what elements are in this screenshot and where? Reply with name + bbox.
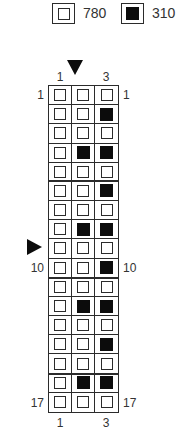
white-bead-icon — [77, 319, 89, 331]
row-group-separator-line — [48, 277, 119, 279]
grid-cell — [95, 297, 118, 316]
white-bead-icon — [54, 204, 66, 216]
black-bead-icon — [77, 223, 90, 236]
grid-cell — [95, 220, 118, 239]
white-bead-icon — [54, 89, 66, 101]
row-group-separator-line — [48, 373, 119, 375]
white-bead-icon — [101, 242, 113, 254]
white-bead-icon — [54, 185, 66, 197]
white-bead-icon — [77, 338, 89, 350]
pattern-grid — [48, 85, 119, 413]
legend-value-white: 780 — [83, 4, 106, 23]
grid-cell — [72, 105, 95, 124]
grid-cell — [72, 239, 95, 258]
grid-cell — [49, 278, 72, 297]
grid-cell — [72, 374, 95, 393]
white-bead-icon — [77, 108, 89, 120]
white-bead-icon — [77, 262, 89, 274]
white-bead-icon — [101, 358, 113, 370]
grid-cell — [95, 144, 118, 163]
grid-cell — [72, 354, 95, 373]
bead-pattern-chart: 780 310 1 3 1 1 10 10 17 17 1 3 — [0, 0, 192, 444]
white-bead-icon — [54, 166, 66, 178]
grid-cell — [49, 393, 72, 412]
black-bead-icon — [77, 146, 90, 159]
white-bead-icon — [54, 300, 66, 312]
white-bead-icon — [54, 108, 66, 120]
black-bead-icon — [100, 146, 113, 159]
white-bead-icon — [77, 127, 89, 139]
white-bead-icon — [77, 242, 89, 254]
grid-cell — [72, 201, 95, 220]
white-bead-icon — [77, 358, 89, 370]
white-bead-icon — [54, 338, 66, 350]
row-label-left-first: 1 — [12, 88, 44, 102]
grid-cell — [95, 393, 118, 412]
legend-item-white: 780 — [52, 3, 106, 24]
grid-cell — [49, 374, 72, 393]
grid-cell — [95, 335, 118, 354]
col-label-top-first: 1 — [50, 70, 70, 84]
white-bead-icon — [54, 281, 66, 293]
grid-cell — [95, 259, 118, 278]
col-label-bottom-first: 1 — [50, 416, 70, 430]
grid-cell — [49, 354, 72, 373]
black-bead-icon — [100, 338, 113, 351]
grid-cell — [49, 144, 72, 163]
black-bead-icon — [77, 376, 90, 389]
grid-cell — [49, 124, 72, 143]
black-bead-icon — [100, 300, 113, 313]
white-bead-icon — [54, 262, 66, 274]
white-square-swatch — [52, 3, 75, 24]
grid-cell — [95, 201, 118, 220]
white-bead-icon — [77, 185, 89, 197]
grid-cell — [95, 163, 118, 182]
grid-cell — [95, 374, 118, 393]
row-label-left-last: 17 — [12, 396, 44, 410]
black-bead-icon — [100, 184, 113, 197]
white-bead-icon — [101, 89, 113, 101]
grid-cell — [95, 105, 118, 124]
white-bead-icon — [54, 377, 66, 389]
grid-cell — [49, 335, 72, 354]
grid-cell — [49, 220, 72, 239]
row-group-separator-line — [48, 180, 119, 182]
grid-cell — [49, 201, 72, 220]
row-label-right-last: 17 — [123, 396, 155, 410]
white-bead-icon — [77, 396, 89, 408]
grid-cell — [72, 124, 95, 143]
black-bead-icon — [100, 108, 113, 121]
grid-cell — [72, 278, 95, 297]
black-bead-icon — [100, 376, 113, 389]
col-label-bottom-last: 3 — [96, 416, 116, 430]
white-bead-icon — [54, 358, 66, 370]
white-bead-icon — [54, 242, 66, 254]
grid-cell — [72, 144, 95, 163]
legend-item-black: 310 — [121, 3, 175, 24]
white-bead-icon — [77, 281, 89, 293]
white-bead-icon — [54, 127, 66, 139]
col-label-top-last: 3 — [96, 70, 116, 84]
grid-cell — [49, 105, 72, 124]
grid-cell — [72, 393, 95, 412]
grid-cell — [49, 239, 72, 258]
white-bead-icon — [77, 204, 89, 216]
grid-cell — [72, 297, 95, 316]
black-bead-icon — [100, 261, 113, 274]
white-bead-icon — [54, 147, 66, 159]
row-label-left-middle: 10 — [12, 261, 44, 275]
grid-cell — [95, 86, 118, 105]
grid-cell — [95, 316, 118, 335]
grid-cell — [72, 86, 95, 105]
grid-cell — [72, 163, 95, 182]
grid-cell — [72, 259, 95, 278]
legend-value-black: 310 — [152, 4, 175, 23]
grid-cell — [49, 182, 72, 201]
grid-cell — [49, 316, 72, 335]
black-bead-icon — [77, 300, 90, 313]
white-bead-icon — [58, 8, 70, 20]
white-bead-icon — [101, 204, 113, 216]
white-bead-icon — [54, 396, 66, 408]
white-bead-icon — [101, 281, 113, 293]
black-square-swatch — [121, 3, 144, 24]
